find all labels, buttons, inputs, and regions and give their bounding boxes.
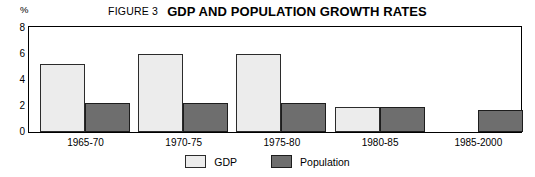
figure-number: FIGURE 3 xyxy=(108,5,158,17)
bar-gdp-1980-85 xyxy=(335,107,380,132)
bar-population-1975-80 xyxy=(281,103,326,132)
legend-label-population: Population xyxy=(300,156,350,168)
bar-group xyxy=(225,27,323,132)
legend-label-gdp: GDP xyxy=(214,156,237,168)
bar-gdp-1965-70 xyxy=(40,64,85,132)
bar-group xyxy=(422,27,520,132)
x-axis-tick-1980-85: 1980-85 xyxy=(362,137,399,148)
y-axis-tick-4: 4 xyxy=(19,74,25,85)
bar-group xyxy=(127,27,225,132)
y-axis-unit-label: % xyxy=(20,4,28,15)
figure-header: FIGURE 3 GDP AND POPULATION GROWTH RATES xyxy=(0,2,535,20)
bar-group xyxy=(29,27,127,132)
y-axis-tick-6: 6 xyxy=(19,48,25,59)
figure-title: GDP AND POPULATION GROWTH RATES xyxy=(167,4,427,19)
x-axis-tick-1985-2000: 1985-2000 xyxy=(454,137,502,148)
x-axis-tick-1975-80: 1975-80 xyxy=(264,137,301,148)
bar-population-1970-75 xyxy=(183,103,228,132)
bar-group xyxy=(324,27,422,132)
y-axis-tick-2: 2 xyxy=(19,100,25,111)
legend-item-population: Population xyxy=(271,155,350,168)
legend-swatch-population xyxy=(271,155,292,168)
y-axis-tick-0: 0 xyxy=(19,126,25,137)
plot-inner: 02468 xyxy=(29,27,521,132)
bar-population-1965-70 xyxy=(85,103,130,132)
bar-population-1985-2000 xyxy=(478,110,523,132)
legend-item-gdp: GDP xyxy=(185,155,237,168)
x-axis-tick-1970-75: 1970-75 xyxy=(165,137,202,148)
x-axis-tick-1965-70: 1965-70 xyxy=(67,137,104,148)
y-axis-tick-8: 8 xyxy=(19,22,25,33)
bar-gdp-1970-75 xyxy=(138,54,183,132)
figure-container: FIGURE 3 GDP AND POPULATION GROWTH RATES… xyxy=(0,0,535,177)
plot-area: 02468 xyxy=(28,26,522,133)
legend-swatch-gdp xyxy=(185,155,206,168)
bar-population-1980-85 xyxy=(380,107,425,132)
legend: GDP Population xyxy=(0,155,535,168)
bar-gdp-1975-80 xyxy=(236,54,281,132)
